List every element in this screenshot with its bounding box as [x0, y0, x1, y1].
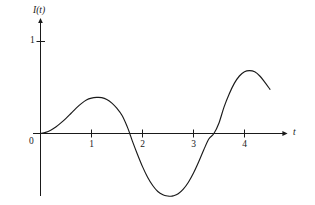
- plot-canvas: [0, 0, 315, 205]
- x-tick-label-3: 3: [191, 140, 196, 150]
- x-tick-label-2: 2: [140, 140, 145, 150]
- y-tick-label-1: 1: [30, 36, 35, 46]
- y-axis-label: I(t): [33, 6, 45, 16]
- graph-figure: I(t) t 0 1 1 2 3 4: [0, 0, 315, 205]
- origin-label: 0: [29, 137, 34, 147]
- x-tick-label-1: 1: [89, 140, 94, 150]
- x-axis-label: t: [293, 128, 296, 138]
- x-tick-label-4: 4: [242, 140, 247, 150]
